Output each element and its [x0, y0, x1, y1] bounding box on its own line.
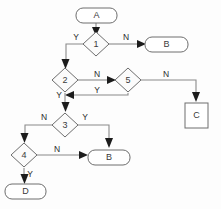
node-b-bottom-label: B: [106, 152, 112, 162]
edge-label-3-no: N: [41, 112, 47, 122]
node-decision-2-label: 2: [62, 75, 67, 85]
edge-label-2-no: N: [94, 69, 100, 79]
node-a[interactable]: A: [76, 8, 117, 23]
edge-label-1-no: N: [123, 32, 129, 42]
edge-5-no: [141, 80, 200, 102]
edge-label-5-yes: Y: [94, 85, 100, 95]
flowchart-diagram: Y N N Y Y N N Y N Y A 1 B 2: [0, 0, 221, 209]
flowchart-canvas: Y N N Y Y N N Y N Y A 1 B 2: [0, 0, 221, 209]
node-decision-3[interactable]: 3: [52, 113, 78, 137]
node-decision-5[interactable]: 5: [115, 68, 141, 92]
edge-label-4-yes: Y: [27, 169, 33, 179]
node-d-label: D: [22, 186, 29, 196]
node-decision-4-label: 4: [21, 150, 26, 160]
edge-label-5-no: N: [163, 69, 169, 79]
node-decision-1[interactable]: 1: [83, 32, 109, 56]
node-c[interactable]: C: [185, 103, 208, 128]
node-decision-5-label: 5: [125, 75, 130, 85]
edge-4-no: [37, 151, 88, 159]
node-b-bottom[interactable]: B: [88, 150, 130, 165]
edge-1-yes: [62, 44, 84, 69]
node-decision-2[interactable]: 2: [52, 68, 78, 92]
edge-label-3-yes: Y: [82, 112, 88, 122]
node-a-label: A: [93, 10, 99, 20]
node-c-label: C: [193, 110, 200, 120]
edge-label-2-yes: Y: [56, 90, 62, 100]
node-decision-4[interactable]: 4: [11, 143, 37, 167]
node-decision-1-label: 1: [93, 39, 98, 49]
node-d[interactable]: D: [5, 184, 46, 199]
node-b-top[interactable]: B: [145, 37, 188, 52]
edge-label-1-yes: Y: [73, 32, 79, 42]
edge-3-no: [21, 125, 53, 143]
edge-label-4-no: N: [54, 144, 60, 154]
node-decision-3-label: 3: [62, 120, 67, 130]
node-b-top-label: B: [163, 39, 169, 49]
edge-3-yes: [78, 125, 113, 148]
